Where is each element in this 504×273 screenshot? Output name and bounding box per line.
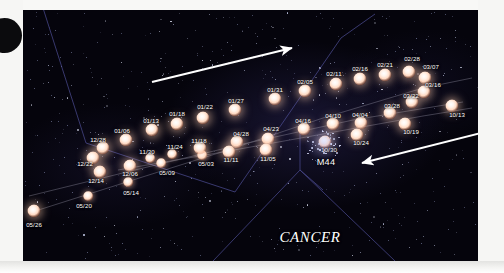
planet-position-dot xyxy=(403,66,416,79)
date-label: 01/27 xyxy=(228,97,244,104)
date-label: 01/18 xyxy=(169,110,185,117)
date-label: 10/19 xyxy=(403,128,419,135)
date-label: 05/26 xyxy=(26,221,42,228)
date-label: 04/10 xyxy=(325,112,341,119)
planet-position-dot xyxy=(123,177,133,187)
planet-position-dot xyxy=(197,112,210,125)
planet-position-dot xyxy=(145,153,155,163)
date-label: 11/30 xyxy=(139,148,154,155)
planet-position-dot xyxy=(379,69,392,82)
paper-margin-bottom xyxy=(0,261,504,273)
constellation-label-cancer: CANCER xyxy=(279,229,340,246)
date-label: 05/20 xyxy=(76,202,92,209)
planet-position-dot xyxy=(229,104,242,117)
planet-position-dot xyxy=(197,150,207,160)
date-label: 03/28 xyxy=(384,102,400,109)
date-label: 12/22 xyxy=(77,160,93,167)
date-label: 01/06 xyxy=(114,127,130,134)
date-label: 01/31 xyxy=(267,86,283,93)
date-label: 03/16 xyxy=(425,81,441,88)
date-label: 03/07 xyxy=(423,63,439,70)
date-label: 10/24 xyxy=(353,139,369,146)
figure-page: 05/2605/2005/1412/1412/0612/2212/2801/06… xyxy=(0,0,504,273)
date-label: 05/09 xyxy=(159,169,175,176)
date-label: 05/03 xyxy=(198,160,214,167)
date-label: 01/13 xyxy=(143,117,159,124)
planet-date-markers: 05/2605/2005/1412/1412/0612/2212/2801/06… xyxy=(23,10,478,261)
paper-margin-right xyxy=(478,0,504,273)
paper-margin-top xyxy=(0,0,504,10)
date-label: 04/23 xyxy=(263,125,279,132)
planet-position-dot xyxy=(120,134,133,147)
planet-position-dot xyxy=(97,142,110,155)
date-label: 12/06 xyxy=(122,170,138,177)
planet-position-dot xyxy=(146,124,159,137)
date-label: 04/04 xyxy=(352,111,368,118)
planet-position-dot xyxy=(299,85,312,98)
planet-position-dot xyxy=(262,133,275,146)
planet-position-dot xyxy=(28,205,41,218)
date-label: 10/13 xyxy=(449,111,465,118)
date-label: 04/28 xyxy=(233,130,249,137)
planet-position-dot xyxy=(83,191,93,201)
date-label: 02/11 xyxy=(326,70,341,77)
planet-position-dot xyxy=(231,136,244,149)
date-label: 02/05 xyxy=(297,78,313,85)
date-label: 11/24 xyxy=(167,143,182,150)
date-label: 11/05 xyxy=(260,155,275,162)
date-label: 11/18 xyxy=(191,137,206,144)
m44-cluster-icon xyxy=(306,130,340,156)
planet-position-dot xyxy=(354,73,367,86)
date-label: 02/28 xyxy=(404,55,420,62)
planet-position-dot xyxy=(167,149,177,159)
date-label: 12/14 xyxy=(88,177,104,184)
date-label: 12/28 xyxy=(90,136,106,143)
date-label: 11/11 xyxy=(224,156,239,163)
planet-position-dot xyxy=(355,117,368,130)
planet-position-dot xyxy=(269,93,282,106)
planet-position-dot xyxy=(171,118,184,131)
date-label: 02/16 xyxy=(352,65,368,72)
star-field: 05/2605/2005/1412/1412/0612/2212/2801/06… xyxy=(23,10,478,261)
date-label: 01/22 xyxy=(197,103,213,110)
planet-position-dot xyxy=(156,158,166,168)
m44-label: M44 xyxy=(317,157,335,167)
planet-position-dot xyxy=(330,78,343,91)
date-label: 02/21 xyxy=(377,61,393,68)
date-label: 03/22 xyxy=(403,92,419,99)
date-label: 05/14 xyxy=(123,189,139,196)
date-label: 04/16 xyxy=(295,117,311,124)
